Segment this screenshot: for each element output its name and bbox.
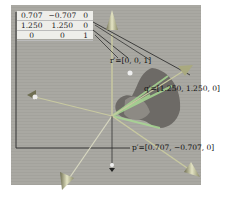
matrix-cell: 1 <box>78 31 93 40</box>
matrix-cell: 0 <box>78 11 93 20</box>
matrix-cell: 1.250 <box>17 21 46 30</box>
matrix-row: 0 0 1 <box>17 31 93 41</box>
matrix-cell: 1.250 <box>46 21 78 30</box>
matrix-cell: 0 <box>78 21 93 30</box>
matrix-row: 0.707 −0.707 0 <box>17 11 93 21</box>
matrix-cell: −0.707 <box>46 11 78 20</box>
matrix-row: 1.250 1.250 0 <box>17 21 93 31</box>
matrix-cell: 0 <box>46 31 78 40</box>
matrix-cell: 0 <box>17 31 46 40</box>
r-vector-label: r′=[0, 0, 1] <box>110 56 151 65</box>
matrix-cell: 0.707 <box>17 11 46 20</box>
p-vector-label: p′=[0.707, −0.707, 0] <box>132 143 214 152</box>
q-vector-label: q′=[1.250, 1.250, 0] <box>144 84 220 93</box>
rotation-matrix: 0.707 −0.707 0 1.250 1.250 0 0 0 1 <box>17 11 93 39</box>
